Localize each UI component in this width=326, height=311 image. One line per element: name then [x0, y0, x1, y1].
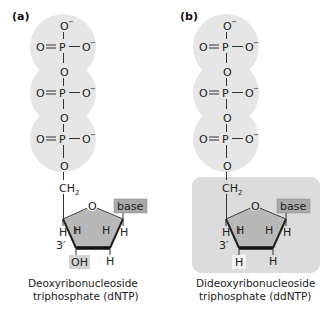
svg-text:O: O [60, 66, 69, 79]
panel-a-dntp: (a) O − O P O − O O P [12, 10, 147, 302]
ddntp-caption-line2: triphosphate (ddNTP) [199, 290, 311, 302]
svg-text:H: H [236, 224, 244, 237]
three-prime-label: 3′ [219, 239, 229, 252]
base-label: base [117, 200, 143, 213]
svg-text:H: H [283, 226, 291, 239]
svg-text:−: − [253, 85, 259, 93]
svg-text:O: O [60, 112, 69, 125]
svg-text:H: H [73, 224, 81, 237]
svg-text:P: P [59, 41, 66, 54]
svg-text:−: − [253, 131, 259, 139]
ring-oxygen: O [251, 200, 260, 213]
svg-text:−: − [253, 39, 259, 47]
svg-text:O: O [36, 133, 45, 146]
base-label: base [280, 200, 306, 213]
svg-text:O: O [199, 133, 208, 146]
svg-text:2: 2 [238, 189, 242, 197]
svg-text:−: − [90, 85, 96, 93]
svg-text:P: P [59, 133, 66, 146]
svg-text:H: H [222, 226, 230, 239]
svg-text:H: H [106, 255, 114, 268]
svg-text:O: O [223, 66, 232, 79]
svg-text:2: 2 [75, 189, 79, 197]
three-prime-hydrogen: H [235, 256, 243, 269]
svg-text:O: O [36, 87, 45, 100]
dntp-vs-ddntp-diagram: (a) O − O P O − O O P [0, 0, 326, 311]
svg-text:H: H [120, 226, 128, 239]
svg-text:O: O [199, 41, 208, 54]
svg-text:P: P [222, 87, 229, 100]
svg-text:H: H [265, 224, 273, 237]
svg-text:−: − [231, 18, 237, 26]
svg-text:CH: CH [222, 182, 238, 195]
svg-text:H: H [269, 255, 277, 268]
panel-b-ddntp: (b) O − O P O − O O P [180, 10, 320, 302]
svg-text:H: H [59, 226, 67, 239]
svg-text:O: O [36, 41, 45, 54]
ring-oxygen: O [88, 200, 97, 213]
svg-text:P: P [222, 41, 229, 54]
three-prime-hydroxyl: OH [71, 256, 88, 269]
svg-text:O: O [223, 112, 232, 125]
ch2-group: CH 2 [59, 182, 79, 197]
svg-text:O: O [199, 87, 208, 100]
svg-text:CH: CH [59, 182, 75, 195]
panel-a-label: (a) [12, 10, 29, 23]
svg-text:P: P [222, 133, 229, 146]
svg-text:H: H [102, 224, 110, 237]
linker-oxygen: O [223, 160, 232, 173]
dntp-caption-line1: Deoxyribonucleoside [28, 277, 138, 289]
dntp-caption-line2: triphosphate (dNTP) [33, 290, 139, 302]
three-prime-label: 3′ [56, 239, 66, 252]
linker-oxygen: O [60, 160, 69, 173]
svg-text:−: − [90, 39, 96, 47]
svg-text:−: − [90, 131, 96, 139]
ddntp-caption-line1: Dideoxyribonucleoside [196, 277, 315, 289]
svg-text:P: P [59, 87, 66, 100]
svg-text:−: − [68, 18, 74, 26]
panel-b-label: (b) [180, 10, 198, 23]
